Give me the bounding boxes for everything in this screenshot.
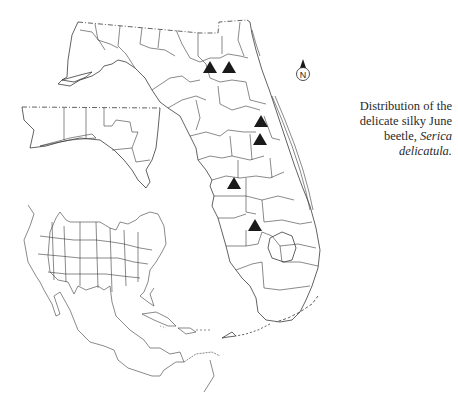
florida-keys xyxy=(222,296,318,338)
record-triangle-5 xyxy=(227,177,241,189)
lake-okeechobee xyxy=(268,232,296,262)
caption-line-3: beetle, Serica xyxy=(340,129,452,144)
florida-state-outline xyxy=(58,20,320,322)
florida-map xyxy=(0,0,458,409)
north-arrow: N xyxy=(294,58,312,84)
caption-species: delicatula. xyxy=(340,144,452,159)
occurrence-markers xyxy=(203,61,268,231)
distribution-map-figure: N Distribution of the delicate silky Jun… xyxy=(0,0,458,409)
record-triangle-6 xyxy=(248,219,262,231)
north-arrow-icon: N xyxy=(294,58,312,84)
record-triangle-4 xyxy=(253,133,267,145)
caption-line-2: delicate silky June xyxy=(340,114,452,129)
caption-line-1: Distribution of the xyxy=(340,99,452,114)
county-boundaries xyxy=(80,22,318,290)
panhandle-inset xyxy=(22,107,160,188)
caption-genus: Serica xyxy=(420,129,452,143)
record-triangle-2 xyxy=(222,61,236,73)
north-america-inset xyxy=(24,205,220,392)
north-label: N xyxy=(300,70,307,80)
map-caption: Distribution of the delicate silky June … xyxy=(340,99,452,159)
caption-common-name-end: beetle, xyxy=(384,129,420,143)
